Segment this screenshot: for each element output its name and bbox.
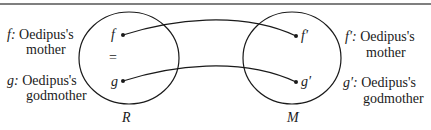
diagram-reference-mapping: f: Oedipus's mother g: Oedipus's godmoth…: [0, 0, 431, 130]
circle-r: [79, 12, 179, 104]
label-f-symbol: f:: [7, 27, 16, 42]
label-gprime-line2: godmother: [363, 91, 424, 107]
label-fprime-description: f′: Oedipus's: [345, 29, 415, 45]
equals-sign: =: [109, 50, 117, 66]
point-f-label: f: [111, 27, 115, 43]
circle-r-label: R: [122, 110, 131, 126]
label-gprime-symbol: g′:: [343, 75, 358, 90]
label-g-symbol: g:: [7, 73, 19, 88]
circle-m-label: M: [287, 110, 299, 126]
label-g-line2: godmother: [26, 88, 87, 104]
point-f: [121, 33, 125, 37]
point-fprime-label: f′: [301, 28, 308, 44]
label-gprime-line1: Oedipus's: [361, 75, 416, 90]
point-g: [121, 79, 125, 83]
label-g-description: g: Oedipus's: [7, 73, 77, 89]
point-g-label: g: [111, 74, 118, 90]
label-f-line1: Oedipus's: [19, 27, 74, 42]
point-gprime: [294, 80, 298, 84]
circle-m: [243, 12, 341, 104]
label-g-line1: Oedipus's: [22, 73, 77, 88]
label-fprime-line1: Oedipus's: [360, 29, 415, 44]
label-fprime-line2: mother: [366, 45, 406, 61]
label-f-description: f: Oedipus's: [7, 27, 74, 43]
label-fprime-symbol: f′:: [345, 29, 357, 44]
arrow-f-to-fprime: [123, 20, 296, 36]
label-f-line2: mother: [26, 42, 66, 58]
diagram-graphics: [0, 0, 431, 130]
arrow-g-to-gprime: [123, 66, 296, 82]
point-gprime-label: g′: [301, 74, 311, 90]
label-gprime-description: g′: Oedipus's: [343, 75, 416, 91]
point-fprime: [294, 34, 298, 38]
